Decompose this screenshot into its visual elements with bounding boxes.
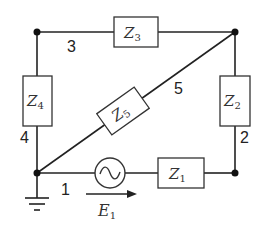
node-top-right	[232, 29, 239, 36]
e1-letter: E	[97, 201, 110, 220]
z3-sub: 3	[134, 32, 140, 43]
impedance-z5: Z5	[97, 87, 150, 135]
impedance-z3: Z3	[114, 17, 158, 47]
e1-sub: 1	[110, 210, 116, 221]
node-bottom-left	[34, 170, 41, 177]
branch-label-3: 3	[67, 38, 76, 55]
branch-label-5: 5	[174, 80, 183, 97]
emf-arrow-icon	[86, 190, 137, 198]
branch-label-1: 1	[61, 181, 70, 198]
z3-letter: Z	[123, 24, 135, 42]
z4-sub: 4	[37, 100, 43, 111]
z4-letter: Z	[26, 92, 38, 110]
z2-letter: Z	[223, 92, 235, 110]
ground-icon	[25, 173, 49, 210]
impedance-z2: Z2	[220, 76, 250, 126]
ac-source-icon	[95, 158, 125, 188]
node-top-left	[34, 29, 41, 36]
branch-label-2: 2	[240, 129, 249, 146]
branch-label-4: 4	[20, 129, 29, 146]
emf-label: E1	[97, 201, 116, 221]
circuit-diagram: Z3 Z4 Z2 Z1 Z5 E1 3 4 5 2 1	[0, 0, 265, 226]
z2-sub: 2	[234, 100, 240, 111]
impedance-z1: Z1	[158, 158, 204, 188]
z1-letter: Z	[168, 165, 180, 183]
z1-sub: 1	[179, 173, 185, 184]
node-bottom-right	[232, 170, 239, 177]
impedance-z4: Z4	[23, 76, 52, 126]
